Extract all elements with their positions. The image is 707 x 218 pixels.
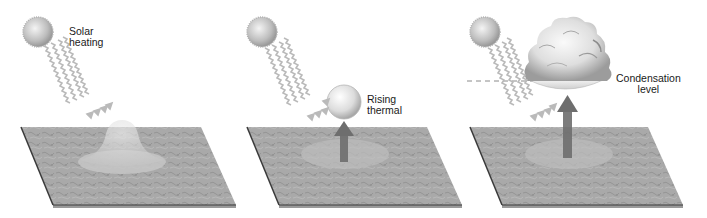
solar-rays [44,37,112,118]
stage-rising-thermal: Rising thermal [235,0,471,218]
label-condensation-level: Condensation level [616,73,681,95]
stage-solar-heating: Solar heating [0,0,236,218]
label-rising-thermal: Rising thermal [367,94,402,116]
sun-icon [247,17,277,47]
cumulus-cloud [524,17,611,89]
solar-rays [265,38,329,120]
sun-icon [23,17,53,47]
stage-condensation-level: Condensation level [467,0,707,218]
label-solar-heating: Solar heating [69,26,103,48]
thermal-sphere [327,85,361,119]
stage-1-illustration [0,0,236,218]
sun-icon [470,17,500,47]
stage-2-illustration [235,0,471,218]
stage-3-illustration [467,0,707,218]
